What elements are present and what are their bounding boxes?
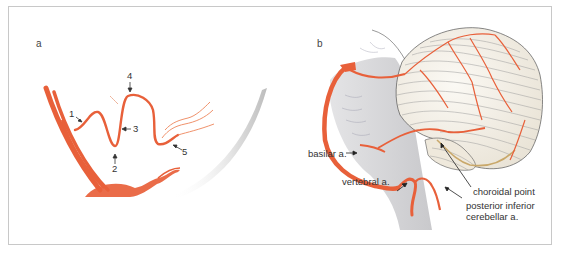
- marker-4: 4: [127, 70, 132, 81]
- arrow-markers: [76, 82, 182, 164]
- pica-vessel: [75, 95, 178, 146]
- marker-5: 5: [182, 146, 187, 157]
- cerebellum: [396, 28, 542, 169]
- skull-contour: [172, 88, 267, 198]
- label-choroidal-point: choroidal point: [473, 186, 535, 197]
- panel-a-angiogram: [46, 82, 267, 198]
- label-vertebral-artery: vertebral a.: [342, 176, 390, 187]
- marker-3: 3: [133, 123, 138, 134]
- panel-b-letter: b: [317, 38, 323, 49]
- label-pica-line2: cerebellar a.: [466, 211, 518, 222]
- label-pica-line1: posterior inferior: [466, 200, 535, 211]
- marker-1: 1: [69, 108, 74, 119]
- panel-a-letter: a: [36, 38, 42, 49]
- marker-2: 2: [112, 163, 117, 174]
- label-basilar-artery: basilar a.: [308, 148, 347, 159]
